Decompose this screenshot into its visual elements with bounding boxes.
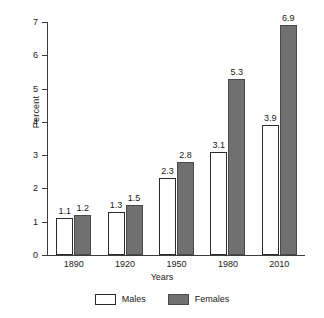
- bar-value-label: 1.2: [72, 204, 93, 213]
- bar-females-1920[interactable]: [126, 205, 143, 255]
- x-axis-title: Years: [0, 272, 324, 282]
- bar-group: 2.32.8: [151, 22, 202, 255]
- bar-males-1980[interactable]: [210, 152, 227, 255]
- bar-value-label: 3.1: [208, 141, 229, 150]
- y-tick-label: 4: [24, 118, 38, 127]
- bar-group: 3.96.9: [254, 22, 305, 255]
- y-tick-label: 3: [24, 151, 38, 160]
- bar-males-2010[interactable]: [262, 125, 279, 255]
- y-tick-label: 0: [24, 251, 38, 260]
- y-tick-mark: [42, 255, 47, 256]
- y-tick-mark: [42, 22, 47, 23]
- y-tick-label: 1: [24, 218, 38, 227]
- y-tick-mark: [42, 155, 47, 156]
- x-tick-label-1950: 1950: [155, 259, 199, 269]
- bar-males-1950[interactable]: [159, 178, 176, 255]
- x-tick-label-1890: 1890: [52, 259, 96, 269]
- legend-label: Females: [195, 295, 230, 304]
- y-tick-label: 5: [24, 85, 38, 94]
- x-tick-label-1980: 1980: [206, 259, 250, 269]
- bar-value-label: 3.9: [260, 114, 281, 123]
- chart-legend: MalesFemales: [0, 294, 324, 305]
- x-tick-label-2010: 2010: [257, 259, 301, 269]
- bar-group: 1.31.5: [99, 22, 150, 255]
- males-swatch: [95, 294, 116, 305]
- bar-value-label: 6.9: [278, 14, 299, 23]
- bar-males-1920[interactable]: [108, 212, 125, 255]
- y-tick-label: 2: [24, 184, 38, 193]
- bar-females-1980[interactable]: [228, 79, 245, 255]
- bar-value-label: 2.3: [157, 167, 178, 176]
- legend-item-males[interactable]: Males: [95, 294, 146, 305]
- bar-females-2010[interactable]: [280, 25, 297, 255]
- bar-group: 3.15.3: [202, 22, 253, 255]
- bar-males-1890[interactable]: [56, 218, 73, 255]
- y-tick-label: 7: [24, 18, 38, 27]
- y-tick-mark: [42, 222, 47, 223]
- legend-item-females[interactable]: Females: [168, 294, 230, 305]
- y-tick-mark: [42, 55, 47, 56]
- y-tick-mark: [42, 89, 47, 90]
- x-tick-label-1920: 1920: [103, 259, 147, 269]
- bar-value-label: 1.5: [124, 194, 145, 203]
- bar-females-1950[interactable]: [177, 162, 194, 255]
- legend-label: Males: [122, 295, 146, 304]
- bar-value-label: 5.3: [226, 68, 247, 77]
- y-tick-label: 6: [24, 51, 38, 60]
- plot-area: 1.11.21.31.52.32.83.15.33.96.9: [48, 22, 305, 255]
- bar-group: 1.11.2: [48, 22, 99, 255]
- y-tick-mark: [42, 122, 47, 123]
- bar-value-label: 2.8: [175, 151, 196, 160]
- bar-chart: Percent 01234567 1.11.21.31.52.32.83.15.…: [0, 0, 324, 318]
- y-tick-mark: [42, 188, 47, 189]
- females-swatch: [168, 294, 189, 305]
- bar-females-1890[interactable]: [74, 215, 91, 255]
- x-axis-line: [47, 255, 305, 256]
